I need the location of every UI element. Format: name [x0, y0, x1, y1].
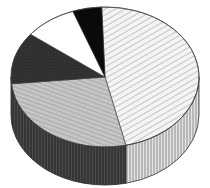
pie-top-face	[11, 7, 199, 147]
pie-chart	[0, 0, 210, 188]
